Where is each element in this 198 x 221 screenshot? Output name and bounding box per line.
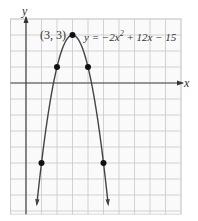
data-point bbox=[54, 64, 60, 70]
data-point bbox=[101, 160, 107, 166]
equation-label: y = −2x2 + 12x − 15 bbox=[83, 29, 177, 43]
vertex-label: (3, 3) bbox=[40, 28, 66, 42]
equation-post: + 12x − 15 bbox=[124, 31, 177, 43]
y-axis-label: y bbox=[21, 4, 28, 18]
x-axis-label: x bbox=[183, 76, 190, 90]
data-point bbox=[39, 160, 45, 166]
equation-pre: y = −2x bbox=[83, 31, 120, 43]
data-point bbox=[85, 64, 91, 70]
grid bbox=[11, 19, 182, 214]
data-point bbox=[70, 32, 76, 38]
parabola-chart: (3, 3) y = −2x2 + 12x − 15 x y bbox=[0, 0, 198, 221]
